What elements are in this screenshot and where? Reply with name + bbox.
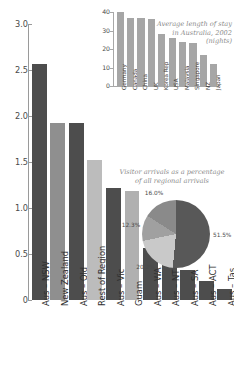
pie-chart-title: Visitor arrivals as a percentage of all … [116,168,228,185]
pie-disc [142,200,210,268]
main-y-tick-label: 2.5 [2,66,28,74]
main-y-tick-mark [28,70,32,71]
pie-slice-label: 12.3% [122,223,140,229]
main-y-tick-label: 1.5 [2,158,28,166]
main-y-tick-mark [28,300,32,301]
main-y-tick-mark [28,116,32,117]
pie-chart-block: Visitor arrivals as a percentage of all … [110,168,234,278]
pie-slice-label: 16.0% [145,191,163,197]
inset-bar-label: Japan [216,74,222,90]
inset-y-tick-label: 30 [99,27,110,33]
main-y-tick-mark [28,24,32,25]
main-y-tick-label: 2.0 [2,112,28,120]
inset-y-tick-mark [110,31,114,32]
figure-root: 3.02.52.01.51.00.50 Aus – NSWNew Zealand… [0,0,234,389]
inset-y-tick-label: 40 [99,9,110,15]
inset-y-tick-label: 20 [99,46,110,52]
inset-y-tick-mark [110,49,114,50]
main-y-tick-mark [28,208,32,209]
main-y-axis-ticks: 3.02.52.01.51.00.50 [0,0,28,389]
pie-slice-label: 20.2% [136,265,154,271]
main-y-tick-mark [28,254,32,255]
inset-bar-chart: 403020100 GermanyCanadaChinaUKKorea RepU… [99,8,234,143]
inset-y-tick-mark [110,68,114,69]
main-y-tick-label: 1.0 [2,204,28,212]
main-y-tick-label: 0 [2,296,28,304]
inset-y-tick-mark [110,12,114,13]
inset-y-tick-label: 10 [99,64,110,70]
main-y-tick-label: 3.0 [2,20,28,28]
main-y-tick-mark [28,162,32,163]
pie-slice-label: 51.5% [213,233,231,239]
main-y-tick-label: 0.5 [2,250,28,258]
inset-y-tick-label: 0 [99,83,110,89]
inset-y-tick-mark [110,86,114,87]
inset-chart-title: Average length of stay in Australia, 200… [154,20,232,46]
